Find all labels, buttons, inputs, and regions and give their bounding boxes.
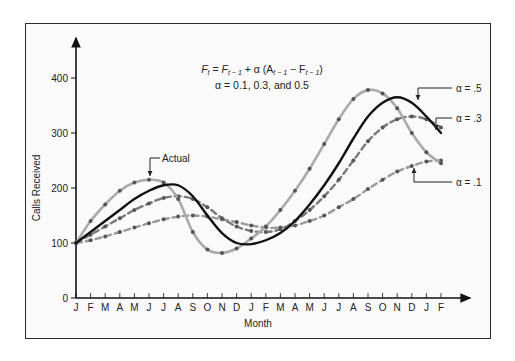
actual-callout-line [150, 158, 160, 176]
data-point [381, 178, 385, 182]
x-tick-label: M [130, 302, 138, 313]
data-point [424, 150, 428, 154]
data-point [278, 208, 282, 212]
data-point [162, 217, 166, 221]
data-point [132, 208, 136, 212]
data-point [395, 106, 399, 110]
data-point [205, 248, 209, 252]
data-point [322, 142, 326, 146]
y-ticks: 0100200300400 [51, 73, 76, 304]
formula-line-1: Ft = Ft − 1 + α (At − 1 − Ft − 1) [201, 63, 323, 76]
alpha3-label: α = .3 [456, 113, 482, 124]
data-point [162, 196, 166, 200]
y-tick-label: 0 [62, 293, 68, 304]
alpha1-callout-line [414, 168, 452, 182]
x-tick-label: M [305, 302, 313, 313]
data-point [235, 247, 239, 251]
data-point [337, 178, 341, 182]
x-tick-label: J [249, 302, 254, 313]
data-point [235, 220, 239, 224]
actual-label: Actual [162, 153, 190, 164]
data-point [103, 203, 107, 207]
data-point [132, 226, 136, 230]
x-tick-label: J [74, 302, 79, 313]
data-point [395, 170, 399, 174]
data-point [118, 189, 122, 193]
data-point [381, 126, 385, 130]
data-point [381, 91, 385, 95]
data-point [424, 160, 428, 164]
data-point [366, 187, 370, 191]
data-point [351, 97, 355, 101]
data-point [103, 225, 107, 229]
data-point [191, 214, 195, 218]
data-point [351, 197, 355, 201]
data-point [439, 161, 443, 165]
alpha5-label: α = .5 [456, 83, 482, 94]
data-point [308, 208, 312, 212]
data-point [220, 251, 224, 255]
formula-line-2: α = 0.1, 0.3, and 0.5 [215, 79, 309, 91]
x-ticks: JFMAMJJASONDJFMAMJJASONDJF [74, 293, 445, 313]
data-point [220, 216, 224, 220]
data-point [351, 159, 355, 163]
data-point [249, 229, 253, 233]
data-point [366, 88, 370, 92]
data-point [205, 205, 209, 209]
x-tick-label: A [350, 302, 357, 313]
x-tick-label: D [408, 302, 415, 313]
x-tick-label: S [365, 302, 372, 313]
data-point [147, 178, 151, 182]
data-point [118, 216, 122, 220]
data-point [410, 164, 414, 168]
y-tick-label: 400 [51, 73, 68, 84]
series-lines [74, 88, 443, 255]
x-tick-label: O [204, 302, 212, 313]
data-point [337, 117, 341, 121]
data-point [293, 189, 297, 193]
data-point [89, 219, 93, 223]
x-tick-label: A [292, 302, 299, 313]
data-point [410, 131, 414, 135]
data-point [439, 126, 443, 130]
data-point [322, 194, 326, 198]
x-tick-label: S [189, 302, 196, 313]
data-point [410, 115, 414, 119]
x-tick-label: A [116, 302, 123, 313]
x-tick-label: J [322, 302, 327, 313]
x-tick-label: F [88, 302, 94, 313]
x-tick-label: N [394, 302, 401, 313]
data-point [132, 181, 136, 185]
data-point [395, 117, 399, 121]
line-chart: 0100200300400 JFMAMJJASONDJFMAMJJASONDJF… [0, 0, 515, 361]
y-tick-label: 100 [51, 238, 68, 249]
x-tick-label: D [233, 302, 240, 313]
data-point [278, 227, 282, 231]
data-point [322, 214, 326, 218]
data-point [249, 223, 253, 227]
alpha-03-line [76, 117, 441, 244]
x-tick-label: M [276, 302, 284, 313]
data-point [337, 205, 341, 209]
y-tick-label: 200 [51, 183, 68, 194]
data-point [308, 219, 312, 223]
alpha-05-line [76, 97, 441, 244]
data-point [264, 225, 268, 229]
x-tick-label: A [175, 302, 182, 313]
data-point [103, 234, 107, 238]
data-point [89, 238, 93, 242]
data-point [176, 215, 180, 219]
x-tick-label: J [424, 302, 429, 313]
x-tick-label: N [218, 302, 225, 313]
x-tick-label: F [263, 302, 269, 313]
data-point [118, 230, 122, 234]
x-tick-label: M [101, 302, 109, 313]
x-tick-label: J [336, 302, 341, 313]
data-point [235, 225, 239, 229]
y-tick-label: 300 [51, 128, 68, 139]
data-point [147, 201, 151, 205]
data-point [308, 167, 312, 171]
x-tick-label: J [161, 302, 166, 313]
data-point [176, 197, 180, 201]
data-point [147, 221, 151, 225]
